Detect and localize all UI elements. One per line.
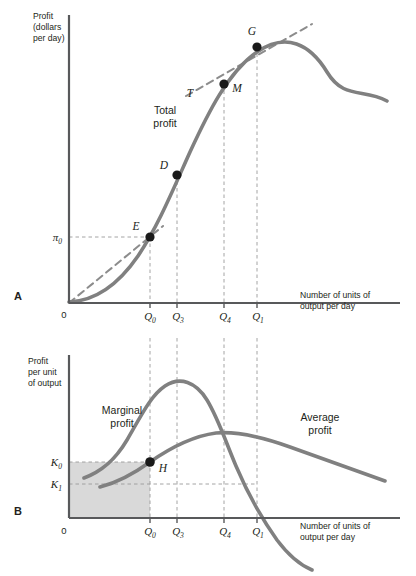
panel-b-ytick-k0-sub: 0 (58, 462, 62, 471)
panel-a-y-axis-label-line1: Profit (33, 11, 54, 21)
panel-b-xtick-q4-base: Q (219, 525, 227, 537)
average-profit-label-line2: profit (308, 424, 331, 436)
panel-a-x-axis-label-line1: Number of units of (300, 290, 371, 300)
panel-a-y-axis-label-line2: (dollars (33, 22, 61, 32)
panel-a-xtick-q3-base: Q (172, 310, 180, 322)
point-h-label: H (158, 462, 168, 474)
point-g-marker (252, 42, 261, 51)
panel-b-ytick-k0: K0 (50, 456, 62, 471)
panel-b-xtick-q4-sub: 4 (227, 531, 231, 540)
panel-a-xtick-q0: Q0 (144, 310, 156, 325)
economics-profit-figure: E D M G T Total profit Profit (dollars p… (0, 0, 416, 576)
panel-a-xtick-q1-sub: 1 (260, 316, 264, 325)
panel-b: H Marginal profit Average profit Profit … (14, 338, 400, 570)
point-m-label: M (231, 82, 243, 94)
point-d-label: D (159, 159, 169, 171)
panel-b-x-axis-label-line1: Number of units of (300, 521, 371, 531)
panel-b-xtick-q0: Q0 (144, 525, 156, 540)
panel-b-xtick-q0-sub: 0 (152, 531, 156, 540)
figure-svg: E D M G T Total profit Profit (dollars p… (0, 0, 416, 576)
panel-a-xtick-q4-sub: 4 (227, 316, 231, 325)
total-profit-label-line1: Total (154, 104, 176, 116)
total-profit-label-line2: profit (153, 117, 176, 129)
panel-a-origin-label: 0 (61, 309, 66, 320)
panel-a-xtick-q0-base: Q (144, 310, 152, 322)
panel-a-ytick-pi0-sub: 0 (58, 237, 62, 246)
panel-b-letter: B (14, 505, 22, 517)
panel-b-xtick-q3: Q3 (172, 525, 184, 540)
panel-a-guidelines (69, 47, 257, 303)
panel-a-xtick-q4: Q4 (219, 310, 231, 325)
panel-a-xtick-q1: Q1 (252, 310, 264, 325)
panel-a-xtick-q3: Q3 (172, 310, 184, 325)
panel-b-y-axis-label-line2: per unit (28, 367, 57, 377)
average-profit-label-line1: Average (301, 411, 340, 423)
point-e-label: E (131, 220, 139, 232)
panel-b-x-axis-label-line2: output per day (300, 532, 356, 542)
panel-b-xtick-q4: Q4 (219, 525, 231, 540)
panel-a: E D M G T Total profit Profit (dollars p… (14, 11, 400, 325)
panel-b-y-axis-label-line1: Profit (28, 356, 49, 366)
panel-a-ytick-pi0: π0 (53, 231, 63, 246)
panel-b-xtick-q3-sub: 3 (179, 531, 184, 540)
panel-a-x-axis-label-line2: output per day (300, 301, 356, 311)
tangent-label-t: T (187, 87, 195, 99)
panel-b-xtick-q0-base: Q (144, 525, 152, 537)
point-d-marker (172, 170, 181, 179)
panel-b-y-axis-label-line3: of output (28, 378, 62, 388)
panel-a-xtick-q1-base: Q (252, 310, 260, 322)
panel-b-xtick-q1-sub: 1 (260, 531, 264, 540)
panel-b-xtick-q1: Q1 (252, 525, 264, 540)
panel-a-y-axis-label-line3: per day) (33, 33, 65, 43)
panel-a-xtick-q0-sub: 0 (152, 316, 156, 325)
panel-b-xtick-q3-base: Q (172, 525, 180, 537)
point-m-marker (219, 79, 228, 88)
panel-b-origin-label: 0 (61, 525, 66, 536)
panel-a-xtick-q3-sub: 3 (179, 316, 184, 325)
point-h-marker (145, 457, 155, 467)
panel-a-xtick-q4-base: Q (219, 310, 227, 322)
panel-a-letter: A (14, 290, 22, 302)
marginal-profit-label-line2: profit (110, 417, 133, 429)
point-e-marker (145, 232, 154, 241)
panel-b-xtick-q1-base: Q (252, 525, 260, 537)
marginal-profit-label-line1: Marginal (102, 404, 142, 416)
point-g-label: G (248, 25, 257, 37)
panel-b-ytick-k1-sub: 1 (58, 484, 62, 493)
panel-b-ytick-k1: K1 (50, 478, 62, 493)
